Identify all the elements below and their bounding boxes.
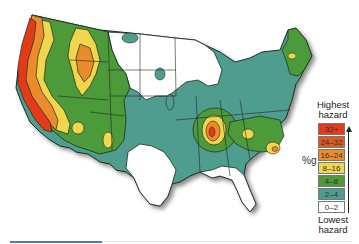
legend-item-24-32: 24–32 [318,136,345,148]
legend-item-0-2: 0–2 [318,201,345,213]
legend-item-4-8: 4–8 [318,175,345,187]
bottom-rule-light [102,241,352,242]
legend-item-16-24: 16–24 [318,149,345,161]
low-hazard-florida [200,166,256,212]
hazard-arrow-line [348,131,349,213]
legend-lowest-label: Lowest hazard [310,215,356,235]
nd-teal-spot [122,33,138,43]
legend-item-32plus: 32+ [318,123,345,135]
legend-lowest-line2: hazard [310,225,356,235]
legend-highest-line2: hazard [310,110,356,120]
bottom-rule-blue [10,241,102,243]
new-madrid-red [209,127,215,137]
legend-unit-label: %g [302,155,316,166]
az-yellow-spot [72,122,84,134]
legend-highest-label: Highest hazard [310,100,356,120]
charleston-orange [272,147,278,152]
ny-yellow-spot [288,53,296,59]
hazard-map [0,0,359,244]
legend-scale: 32+ 24–32 16–24 8–16 4–8 2–4 0–2 [318,123,345,214]
legend-item-8-16: 8–16 [318,162,345,174]
ne-teal-spot [166,94,174,110]
legend-item-2-4: 2–4 [318,188,345,200]
tennessee-yellow [242,129,254,139]
